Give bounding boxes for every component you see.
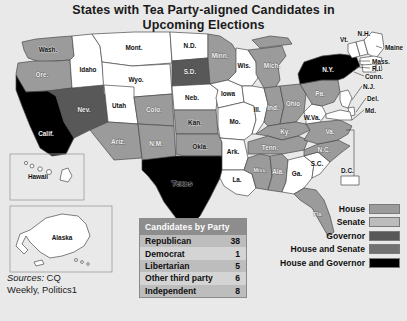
table-row: Democrat 1 bbox=[140, 247, 246, 259]
state-label-SC: S.C. bbox=[311, 160, 324, 167]
state-label-NJ: N.J. bbox=[363, 83, 375, 90]
hawaii-islet-2 bbox=[30, 164, 34, 168]
table-row: Libertarian 5 bbox=[140, 260, 246, 272]
legend-item-governor: Governor bbox=[250, 229, 400, 242]
state-label-VT: Vt. bbox=[340, 36, 348, 43]
legend-item-senate: Senate bbox=[250, 216, 400, 229]
alaska-islet-3 bbox=[87, 263, 90, 266]
state-label-TX: Texas bbox=[172, 179, 193, 188]
state-label-IN: Ind. bbox=[267, 104, 279, 111]
map-legend: House Senate Governor House and Senate H… bbox=[250, 202, 400, 270]
sources-text: CQ bbox=[47, 272, 61, 283]
sources-text-line2: Weekly, Politics1 bbox=[7, 284, 77, 295]
party-count: 6 bbox=[235, 273, 240, 283]
state-MD bbox=[326, 110, 352, 120]
legend-label: House bbox=[339, 204, 365, 214]
state-label-MT: Mont. bbox=[125, 44, 142, 51]
table-row: Other third party 6 bbox=[140, 272, 246, 284]
state-label-MD: Md. bbox=[365, 107, 376, 114]
legend-label: Senate bbox=[337, 217, 365, 227]
state-label-OR: Ore. bbox=[36, 71, 49, 78]
legend-label: Governor bbox=[326, 231, 365, 241]
alaska-islet-1 bbox=[75, 259, 78, 262]
hawaii-islet-1 bbox=[24, 161, 27, 164]
page-title-line-1: States with Tea Party-aligned Candidates… bbox=[0, 3, 407, 18]
state-label-NM: N.M. bbox=[149, 140, 163, 147]
hawaii-islet-3 bbox=[38, 167, 42, 171]
alaska-aleutians bbox=[34, 260, 44, 266]
candidates-by-party-table: Candidates by Party Republican 38 Democr… bbox=[139, 218, 247, 298]
state-label-WI: Wis. bbox=[237, 62, 250, 69]
state-label-DE: Del. bbox=[367, 95, 379, 102]
state-label-IA: Iowa bbox=[221, 90, 236, 97]
state-label-DC: D.C. bbox=[341, 167, 354, 174]
state-MI2 bbox=[252, 36, 292, 48]
state-label-MI: Mich. bbox=[264, 62, 281, 69]
party-name: Independent bbox=[145, 286, 196, 296]
state-label-MA: Mass. bbox=[372, 58, 390, 65]
state-label-UT: Utah bbox=[112, 102, 126, 109]
leader-line-ct bbox=[354, 72, 364, 76]
state-HI bbox=[60, 168, 72, 182]
state-label-NC: N.C. bbox=[318, 146, 331, 153]
leader-line-nj bbox=[352, 86, 362, 100]
state-label-GA: Ga. bbox=[292, 170, 303, 177]
sources-label: Sources: bbox=[7, 272, 44, 283]
table-header: Candidates by Party bbox=[140, 219, 246, 235]
state-label-CA: Calif. bbox=[38, 130, 54, 137]
state-label-KY: Ky. bbox=[280, 128, 290, 136]
state-label-MO: Mo. bbox=[229, 118, 240, 125]
party-name: Republican bbox=[145, 236, 191, 246]
state-label-ND: N.D. bbox=[184, 42, 197, 49]
state-label-VA: Va. bbox=[325, 128, 334, 135]
alaska-islet-2 bbox=[81, 261, 84, 264]
state-label-AK: Alaska bbox=[52, 234, 73, 241]
legend-swatch-governor bbox=[369, 231, 400, 241]
legend-item-house: House bbox=[250, 202, 400, 215]
map-infographic: States with Tea Party-aligned Candidates… bbox=[0, 0, 407, 321]
state-label-NH: N.H. bbox=[358, 30, 371, 37]
table-row: Independent 8 bbox=[140, 285, 246, 297]
table-row: Republican 38 bbox=[140, 235, 246, 247]
state-label-WY: Wyo. bbox=[128, 76, 143, 84]
state-DC bbox=[341, 176, 359, 185]
state-label-NV: Nev. bbox=[77, 106, 90, 113]
state-NJ bbox=[340, 90, 352, 108]
page-title: States with Tea Party-aligned Candidates… bbox=[0, 3, 407, 33]
legend-item-house-and-senate: House and Senate bbox=[250, 243, 400, 256]
sources-note: Sources: CQ Weekly, Politics1 bbox=[7, 272, 77, 295]
state-label-OK: Okla. bbox=[192, 143, 208, 150]
legend-swatch-senate bbox=[369, 217, 400, 227]
state-label-CO: Colo. bbox=[146, 106, 162, 113]
state-label-TN: Tenn. bbox=[262, 144, 279, 151]
state-label-ID: Idaho bbox=[79, 66, 96, 73]
state-label-AZ: Ariz. bbox=[111, 138, 125, 145]
state-label-MS: Miss. bbox=[254, 167, 268, 173]
state-label-KS: Kan. bbox=[188, 119, 202, 126]
legend-item-house-and-governor: House and Governor bbox=[250, 256, 400, 269]
state-TX bbox=[142, 156, 224, 226]
state-label-NE: Neb. bbox=[185, 94, 199, 101]
state-LA bbox=[220, 170, 256, 196]
party-name: Democrat bbox=[145, 249, 185, 259]
state-label-WA: Wash. bbox=[39, 46, 58, 53]
state-label-RI: R.I. bbox=[372, 65, 382, 72]
state-label-HI: Hawaii bbox=[28, 173, 48, 180]
legend-label: House and Senate bbox=[291, 244, 366, 254]
state-label-PA: Pa. bbox=[315, 90, 325, 97]
legend-swatch-house-and-governor bbox=[369, 258, 400, 268]
party-count: 5 bbox=[235, 261, 240, 271]
state-label-IL: Ill. bbox=[253, 106, 260, 113]
state-label-CT: Conn. bbox=[365, 73, 383, 80]
state-label-NY: N.Y. bbox=[322, 66, 334, 73]
state-label-SD: S.D. bbox=[184, 68, 197, 75]
party-name: Libertarian bbox=[145, 261, 189, 271]
party-count: 38 bbox=[230, 236, 240, 246]
party-count: 1 bbox=[235, 249, 240, 259]
state-label-WV: W.Va. bbox=[304, 114, 321, 121]
state-label-ME: Maine bbox=[385, 44, 403, 51]
legend-label: House and Governor bbox=[280, 258, 365, 268]
party-name: Other third party bbox=[145, 273, 213, 283]
party-count: 8 bbox=[235, 286, 240, 296]
legend-swatch-house bbox=[369, 204, 400, 214]
